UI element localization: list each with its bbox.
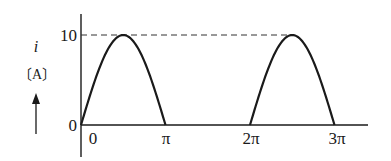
waveform-hump-2 [250,35,335,125]
x-tick-label-2pi: 2π [242,129,260,148]
x-tick-label-3pi: 3π [328,129,346,148]
x-tick-label-0: 0 [89,129,98,148]
x-tick-label-pi: π [162,129,171,148]
y-tick-label-10: 10 [60,26,77,45]
arrow-up-icon [32,93,40,104]
y-tick-label-0: 0 [69,116,78,135]
half-wave-rectified-current-chart: 10 0 i 〔A〕 0 π 2π 3π [0,0,391,161]
waveform-hump-1 [81,35,166,125]
y-axis-label: i [34,38,38,55]
y-axis-unit: 〔A〕 [18,67,56,82]
